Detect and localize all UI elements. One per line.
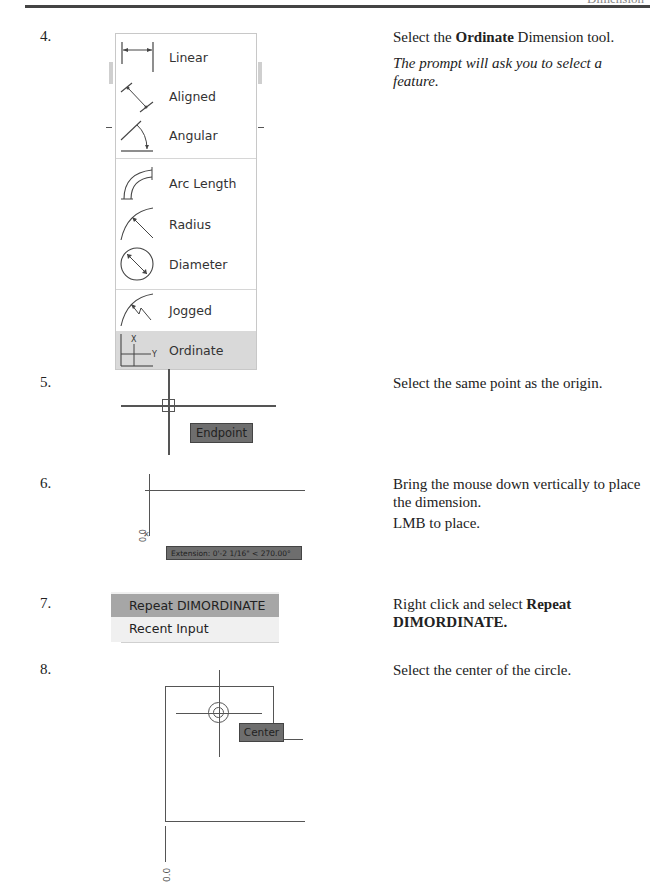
step-5-instruction: Select the same point as the origin. [393,374,643,392]
radius-dimension-icon [119,206,155,242]
menu-item-diameter[interactable]: Diameter [116,244,256,284]
linear-dimension-icon [119,40,155,74]
menu-item-label: Diameter [169,257,227,272]
rectangle-right-edge [273,686,274,726]
menu-item-label: Linear [169,50,208,65]
step-6-instruction: Bring the mouse down vertically to place… [393,475,643,511]
center-snap-marker [213,707,224,718]
dimension-value: 0.0 [162,868,172,882]
step-8-instruction: Select the center of the circle. [393,661,643,679]
context-menu-item-repeat-dimordinate[interactable]: Repeat DIMORDINATE [111,594,279,617]
aligned-dimension-icon [119,79,155,113]
rectangle-left-edge [165,686,166,822]
menu-item-label: Angular [169,128,218,143]
menu-item-label: Aligned [169,89,216,104]
menu-item-label: Arc Length [169,176,236,191]
menu-item-label: Ordinate [169,343,223,358]
crosshair-vertical [168,369,170,455]
step-6-instruction-2: LMB to place. [393,514,643,532]
dimension-dropdown-menu: Linear Aligned Angular Arc Length [115,33,257,370]
header-rule [25,5,650,8]
angular-dimension-icon [119,118,155,152]
step-4-note: The prompt will ask you to select a feat… [393,54,643,90]
menu-item-aligned[interactable]: Aligned [116,76,256,116]
extension-tooltip: Extension: 0'-2 1/16" < 270.00° [166,546,302,560]
svg-text:Y: Y [151,350,157,359]
ribbon-fragment [106,127,112,128]
ribbon-fragment [258,127,264,128]
context-menu: Repeat DIMORDINATE Recent Input [111,592,279,642]
extension-line [149,474,150,536]
menu-separator [121,642,279,643]
menu-item-radius[interactable]: Radius [116,204,256,244]
menu-separator [116,158,256,159]
rectangle-bottom-edge [165,821,305,822]
step-number-4: 4. [40,28,51,45]
center-tooltip: Center [239,723,284,742]
ribbon-fragment [258,62,262,84]
ordinate-dimension-icon: X Y [119,332,159,368]
menu-item-angular[interactable]: Angular [116,115,256,155]
menu-item-label: Radius [169,217,211,232]
context-menu-item-recent-input[interactable]: Recent Input [111,617,279,640]
dimension-value: 0.0 [139,529,148,542]
step-4-instruction: Select the Ordinate Dimension tool. [393,28,643,46]
step-7-instruction: Right click and select Repeat DIMORDINAT… [393,595,648,631]
ribbon-fragment [109,62,113,84]
dimension-leader [165,826,166,862]
crosshair-horizontal [121,405,276,407]
menu-item-ordinate[interactable]: X Y Ordinate [116,331,256,369]
step-number-7: 7. [40,595,51,612]
step-number-8: 8. [40,661,51,678]
menu-item-label: Jogged [169,303,212,318]
step-number-6: 6. [40,475,51,492]
reference-line [145,490,305,491]
menu-item-linear[interactable]: Linear [116,37,256,77]
step-number-5: 5. [40,374,51,391]
svg-text:X: X [131,335,137,344]
menu-item-arc-length[interactable]: Arc Length [116,163,256,203]
jogged-dimension-icon [119,292,155,328]
menu-item-jogged[interactable]: Jogged [116,290,256,330]
endpoint-tooltip: Endpoint [190,423,253,443]
endpoint-snap-marker [162,399,175,412]
diameter-dimension-icon [119,246,155,282]
arc-length-dimension-icon [119,165,155,201]
